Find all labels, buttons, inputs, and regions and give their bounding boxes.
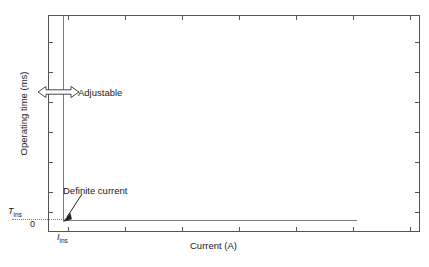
tick-right-2	[415, 72, 420, 73]
tick-left-6	[48, 192, 53, 193]
plot-frame	[48, 15, 420, 232]
tick-right-1	[415, 42, 420, 43]
t-ins-guide-line	[12, 219, 64, 220]
tick-top-6	[353, 15, 354, 20]
tick-left-4	[48, 132, 53, 133]
tick-bottom-3	[182, 227, 183, 232]
tick-top-5	[296, 15, 297, 20]
tick-left-1	[48, 42, 53, 43]
tick-top-3	[182, 15, 183, 20]
tick-right-3	[415, 102, 420, 103]
tick-bottom-4	[239, 227, 240, 232]
tick-left-5	[48, 162, 53, 163]
definite-current-annotation-label: Definite current	[63, 185, 127, 196]
y-axis-title: Operating time (ms)	[18, 44, 29, 184]
tick-bottom-7	[410, 227, 411, 232]
tick-top-1	[68, 15, 69, 20]
adjustable-annotation-label: Adjustable	[78, 87, 122, 98]
tick-bottom-1	[68, 227, 69, 232]
tick-left-7	[48, 212, 53, 213]
x-axis-iins-label: Iins	[57, 233, 68, 244]
tins-subscript: ins	[14, 211, 22, 218]
tick-right-6	[415, 192, 420, 193]
tick-bottom-6	[353, 227, 354, 232]
tick-right-5	[415, 162, 420, 163]
tick-right-7	[415, 212, 420, 213]
tick-left-2	[48, 72, 53, 73]
figure-definite-current-characteristic: Tins 0 Iins Operating time (ms) Current …	[0, 0, 429, 267]
tick-bottom-5	[296, 227, 297, 232]
curve-horizontal-segment	[63, 220, 357, 221]
x-axis-title: Current (A)	[190, 240, 237, 251]
tick-top-7	[410, 15, 411, 20]
tick-left-3	[48, 102, 53, 103]
y-axis-tins-label: Tins	[8, 207, 22, 218]
iins-subscript: ins	[60, 237, 68, 244]
y-axis-zero-label: 0	[30, 220, 35, 229]
tick-top-2	[125, 15, 126, 20]
tick-top-4	[239, 15, 240, 20]
tick-bottom-2	[125, 227, 126, 232]
tick-right-4	[415, 132, 420, 133]
